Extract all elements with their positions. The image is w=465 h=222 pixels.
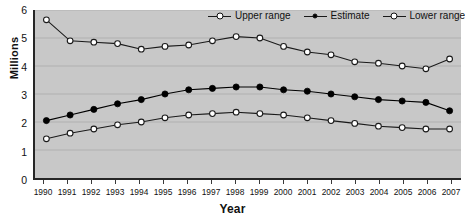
x-tick-label-2001: 2001: [298, 186, 317, 198]
x-axis-tick-marks: [33, 180, 461, 185]
x-tick-mark-2002: [331, 180, 332, 184]
x-tick-mark-2005: [403, 180, 404, 184]
x-tick-mark-2006: [427, 180, 428, 184]
x-tick-mark-1992: [91, 180, 92, 184]
series-layer: [35, 10, 461, 178]
x-tick-mark-2000: [283, 180, 284, 184]
x-tick-label-2000: 2000: [274, 186, 293, 198]
x-axis-title: Year: [0, 202, 465, 216]
y-tick-label-6: 6: [21, 5, 27, 16]
chart-container: Millions 0123456 19901991199219931994199…: [0, 0, 465, 222]
y-tick-label-2: 2: [21, 118, 27, 129]
x-tick-label-2007: 2007: [442, 186, 461, 198]
x-tick-label-1997: 1997: [202, 186, 221, 198]
x-tick-label-1992: 1992: [82, 186, 101, 198]
open-circle-icon: [383, 12, 406, 21]
x-tick-label-2003: 2003: [346, 186, 365, 198]
y-tick-label-4: 4: [21, 61, 27, 72]
x-tick-mark-2007: [451, 180, 452, 184]
x-tick-mark-1996: [187, 180, 188, 184]
x-tick-mark-2001: [307, 180, 308, 184]
y-tick-label-3: 3: [21, 90, 27, 101]
x-tick-mark-2003: [355, 180, 356, 184]
legend-label: Lower range: [410, 11, 465, 21]
x-tick-label-2002: 2002: [322, 186, 341, 198]
y-axis-tick-labels: 0123456: [0, 10, 31, 180]
filled-circle-icon: [304, 12, 327, 21]
x-tick-mark-1991: [67, 180, 68, 184]
x-axis-tick-labels: 1990199119921993199419951996199719981999…: [33, 186, 461, 200]
x-tick-mark-1997: [211, 180, 212, 184]
x-tick-mark-1993: [115, 180, 116, 184]
x-tick-label-1990: 1990: [34, 186, 53, 198]
legend-item-0[interactable]: Upper range: [208, 11, 291, 21]
x-tick-label-1993: 1993: [106, 186, 125, 198]
x-tick-label-2006: 2006: [418, 186, 437, 198]
legend-label: Upper range: [235, 11, 291, 21]
x-tick-mark-1999: [259, 180, 260, 184]
x-tick-label-1998: 1998: [226, 186, 245, 198]
y-tick-label-0: 0: [21, 175, 27, 186]
x-tick-label-1995: 1995: [154, 186, 173, 198]
x-tick-label-2005: 2005: [394, 186, 413, 198]
x-tick-mark-2004: [379, 180, 380, 184]
x-tick-label-1999: 1999: [250, 186, 269, 198]
x-tick-mark-1995: [163, 180, 164, 184]
x-tick-label-1991: 1991: [58, 186, 77, 198]
plot-area: [33, 10, 461, 180]
x-tick-mark-1990: [43, 180, 44, 184]
open-circle-icon: [208, 12, 231, 21]
chart-title-fragment: [280, 0, 465, 7]
x-tick-label-2004: 2004: [370, 186, 389, 198]
x-tick-mark-1994: [139, 180, 140, 184]
y-tick-label-1: 1: [21, 146, 27, 157]
legend-label: Estimate: [331, 11, 370, 21]
x-tick-label-1994: 1994: [130, 186, 149, 198]
chart-legend: Upper rangeEstimateLower range: [208, 11, 465, 21]
y-tick-label-5: 5: [21, 33, 27, 44]
legend-item-1[interactable]: Estimate: [304, 11, 370, 21]
x-tick-label-1996: 1996: [178, 186, 197, 198]
legend-item-2[interactable]: Lower range: [383, 11, 465, 21]
x-tick-mark-1998: [235, 180, 236, 184]
